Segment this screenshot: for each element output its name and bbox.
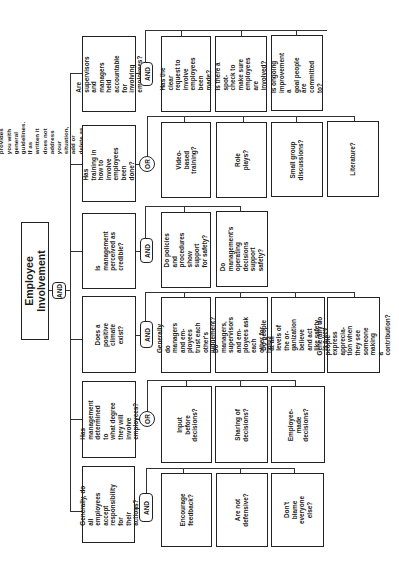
branch-box-climate: Does a positive climate exist? (82, 296, 136, 373)
guideline-note-text: This Fault tree provides you with genera… (0, 122, 91, 154)
root-and-gate: AND (52, 282, 66, 299)
branch-question: Has management determined to what degree… (79, 400, 140, 439)
child-question: Are not defensive? (234, 493, 249, 526)
connector (147, 380, 148, 411)
branch-question: Is management perceived as credible? (94, 231, 124, 270)
child-box: Is ongoing improvement a goal people are… (271, 35, 323, 111)
child-question: Encourage feedback? (179, 493, 194, 526)
child-question: Don't blame everyone else? (282, 496, 312, 524)
child-question: Input before decisions? (175, 408, 198, 441)
connector (146, 468, 147, 493)
child-question: Generally do managers and em- ployees tr… (156, 317, 217, 353)
child-box: Literature? (327, 121, 379, 197)
connector (147, 380, 296, 381)
root-event-label: Employee Involvement (23, 250, 47, 311)
branch-box-responsibility: Generally, do all employees accept respo… (82, 466, 135, 543)
branch-question: Are supervisors and managers held accoun… (75, 55, 143, 92)
child-question: Employee-made decisions? (287, 408, 310, 441)
gate-label: AND (143, 67, 150, 81)
child-box: Generally do managers and em- ployees tr… (161, 297, 211, 373)
child-box: Has the clear request to involve employe… (161, 36, 211, 112)
child-box: Don't blame everyone else? (271, 473, 324, 547)
child-box: Sharing of decisions? (215, 386, 268, 463)
child-question: Do management's operating decisions supp… (219, 227, 265, 272)
gate-label: AND (143, 500, 150, 514)
and-gate: AND (140, 62, 153, 86)
gate-label: OR (144, 414, 151, 424)
child-box: Do policies and procedures show support … (161, 212, 211, 288)
child-box: Generally do people express apprecia- ti… (327, 297, 380, 373)
branch-box-training: Has training in how to involve employees… (82, 125, 136, 202)
child-question: Sharing of decisions? (234, 408, 249, 441)
child-box: Do management's operating decisions supp… (216, 211, 268, 287)
child-question: Small group discussions? (289, 139, 304, 180)
connector (145, 206, 146, 238)
and-gate: AND (140, 321, 153, 348)
guideline-note: This Fault tree provides you with genera… (22, 88, 52, 188)
and-gate: AND (140, 238, 153, 263)
or-gate: OR (139, 156, 155, 172)
connector (147, 116, 354, 117)
branch-box-credibility: Is management perceived as credible? (82, 213, 136, 289)
connector (70, 339, 82, 340)
gate-label: AND (56, 283, 63, 297)
connector (70, 251, 82, 252)
child-box: Encourage feedback? (161, 473, 212, 547)
connector (145, 30, 327, 31)
child-question: Role plays? (234, 148, 249, 173)
branch-box-involvement-degree: Has management determined to what degree… (82, 381, 136, 458)
child-box: Input before decisions? (161, 386, 212, 463)
gate-label: AND (143, 243, 150, 257)
child-question: Generally do people express apprecia- ti… (316, 314, 392, 355)
branch-box-accountability: Are supervisors and managers held accoun… (82, 36, 136, 112)
child-question: Literature? (349, 142, 357, 175)
branch-question: Does a positive climate exist? (94, 322, 124, 348)
child-question: Is ongoing improvement a goal people are… (270, 53, 323, 93)
child-box: Role plays? (216, 122, 267, 198)
child-question: Has the clear request to involve employe… (159, 57, 212, 90)
connector (145, 292, 146, 321)
child-box: Employee-made decisions? (271, 386, 325, 463)
and-gate: AND (139, 493, 153, 522)
child-box: Video-based training? (161, 122, 211, 198)
child-question: Do policies and procedures show support … (163, 233, 209, 268)
connector (145, 206, 241, 207)
root-event-box: Employee Involvement (21, 222, 49, 340)
child-box: Are not defensive? (216, 473, 268, 547)
child-question: Video-based training? (175, 146, 198, 173)
gate-label: AND (143, 327, 150, 341)
connector (145, 292, 354, 293)
connector (145, 30, 146, 62)
or-gate: OR (139, 411, 155, 427)
trunk-line (70, 73, 71, 512)
child-question: Is there a spot-check to make sure emplo… (214, 57, 267, 90)
connector (147, 116, 148, 156)
connector (146, 468, 295, 469)
connector (70, 164, 82, 165)
gate-label: OR (144, 159, 151, 169)
branch-question: Has training in how to involve employees… (82, 147, 135, 180)
child-box: Is there a spot-check to make sure emplo… (215, 36, 267, 112)
child-box: Small group discussions? (271, 122, 323, 197)
branch-question: Generally, do all employees accept respo… (78, 484, 139, 526)
